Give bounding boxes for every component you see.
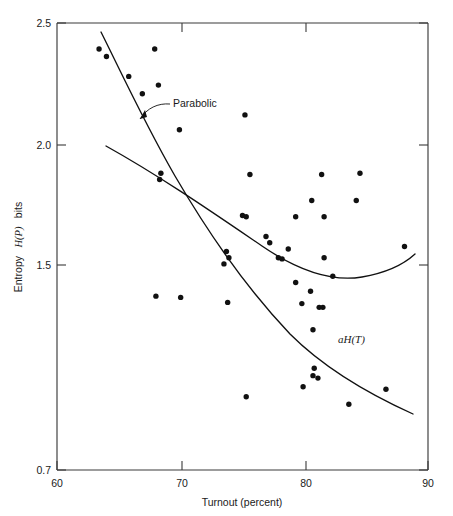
- data-point: [299, 301, 304, 306]
- data-point: [221, 261, 226, 266]
- data-point: [244, 394, 249, 399]
- data-point: [293, 214, 298, 219]
- data-point: [286, 246, 291, 251]
- data-point: [126, 74, 131, 79]
- data-point: [267, 240, 272, 245]
- data-point: [224, 249, 229, 254]
- data-point: [320, 305, 325, 310]
- parabolic-fit-curve: [106, 146, 415, 278]
- data-point: [354, 198, 359, 203]
- data-point: [293, 280, 298, 285]
- data-point: [177, 127, 182, 132]
- data-point: [321, 214, 326, 219]
- data-point: [310, 327, 315, 332]
- data-point: [157, 177, 162, 182]
- data-point: [96, 46, 101, 51]
- data-point: [156, 82, 161, 87]
- data-point: [247, 172, 252, 177]
- data-point: [402, 244, 407, 249]
- data-point: [315, 375, 320, 380]
- data-point: [104, 54, 109, 59]
- data-point: [319, 172, 324, 177]
- data-point: [346, 401, 351, 406]
- x-tick-label-60: 60: [51, 477, 63, 489]
- data-point: [225, 300, 230, 305]
- data-point: [158, 171, 163, 176]
- data-point: [309, 198, 314, 203]
- data-point: [244, 214, 249, 219]
- plot-canvas: 2.5 2.0 1.5 0.7 60 70 80 90 Turnout (per…: [0, 0, 453, 516]
- data-point: [308, 289, 313, 294]
- data-point: [383, 387, 388, 392]
- plot-frame: [57, 23, 428, 470]
- data-point: [263, 234, 268, 239]
- y-tick-label-1-5: 1.5: [36, 259, 51, 271]
- parabolic-annotation: Parabolic: [140, 97, 217, 119]
- scatter-plot-figure: 2.5 2.0 1.5 0.7 60 70 80 90 Turnout (per…: [0, 0, 453, 516]
- x-axis-title: Turnout (percent): [202, 496, 283, 508]
- y-axis-ticks: [57, 23, 428, 470]
- y-tick-label-0-7: 0.7: [36, 464, 51, 476]
- data-point: [178, 295, 183, 300]
- data-point: [300, 384, 305, 389]
- y-axis-title-italic: H(P): [13, 226, 25, 248]
- x-tick-label-80: 80: [300, 477, 312, 489]
- y-tick-label-2-0: 2.0: [36, 139, 51, 151]
- y-axis-title-plain: Entropy: [12, 255, 24, 292]
- x-axis-tick-labels: 60 70 80 90: [51, 477, 434, 489]
- data-point: [310, 373, 315, 378]
- scatter-points-layer: [96, 46, 407, 407]
- ah-t-fit-curve: [101, 32, 413, 414]
- data-point: [152, 46, 157, 51]
- x-tick-label-70: 70: [176, 477, 188, 489]
- y-tick-label-2-5: 2.5: [36, 17, 51, 29]
- x-tick-label-90: 90: [422, 477, 434, 489]
- y-axis-title-suffix: bits: [12, 202, 24, 218]
- data-point: [140, 91, 145, 96]
- y-axis-tick-labels: 2.5 2.0 1.5 0.7: [36, 17, 51, 476]
- parabolic-annotation-label: Parabolic: [173, 97, 217, 109]
- data-point: [357, 171, 362, 176]
- ah-t-annotation-label: aH(T): [338, 333, 365, 346]
- data-point: [242, 112, 247, 117]
- data-point: [312, 365, 317, 370]
- y-axis-title-group: Entropy H(P) bits: [8, 202, 25, 292]
- data-point: [226, 255, 231, 260]
- data-point: [330, 274, 335, 279]
- data-point: [321, 255, 326, 260]
- data-point: [279, 256, 284, 261]
- data-point: [153, 293, 158, 298]
- y-axis-title: Entropy H(P) bits: [8, 202, 25, 292]
- x-axis-ticks: [57, 23, 428, 470]
